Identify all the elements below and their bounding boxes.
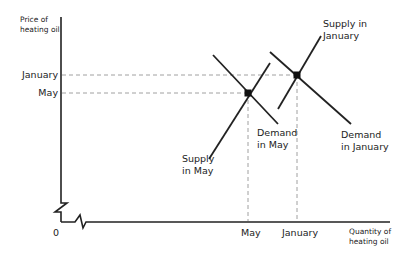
- y-axis-label: Price of heating oil: [20, 15, 60, 35]
- x-axis-label-line1: Quantity of: [349, 227, 391, 237]
- supply-january-label-line2: January: [323, 30, 367, 42]
- x-tick-january: January: [282, 227, 318, 239]
- demand-january-curve: [270, 52, 351, 124]
- supply-january-label-line1: Supply in: [323, 18, 367, 30]
- demand-may-label-line1: Demand: [257, 127, 297, 139]
- y-axis-label-line1: Price of: [20, 15, 60, 25]
- x-axis-label: Quantity of heating oil: [349, 227, 391, 247]
- x-tick-may: May: [241, 227, 261, 239]
- may-equilibrium-point: [245, 90, 252, 97]
- x-axis: [61, 215, 390, 228]
- demand-january-label-line2: in January: [341, 141, 389, 153]
- supply-may-label-line1: Supply: [182, 153, 214, 165]
- origin-label: 0: [53, 227, 59, 239]
- y-axis: [55, 17, 67, 222]
- supply-may-label: Supply in May: [182, 153, 214, 177]
- january-equilibrium-point: [294, 72, 301, 79]
- y-axis-label-line2: heating oil: [20, 25, 60, 35]
- x-axis-label-line2: heating oil: [349, 237, 391, 247]
- demand-january-label-line1: Demand: [341, 129, 389, 141]
- supply-january-label: Supply in January: [323, 18, 367, 42]
- supply-may-label-line2: in May: [182, 165, 214, 177]
- demand-may-label: Demand in May: [257, 127, 297, 151]
- y-tick-january: January: [22, 69, 58, 81]
- demand-january-label: Demand in January: [341, 129, 389, 153]
- y-tick-may: May: [38, 87, 58, 99]
- demand-may-label-line2: in May: [257, 139, 297, 151]
